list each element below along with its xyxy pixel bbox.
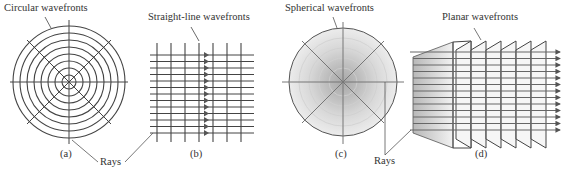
label-straight-line-wavefronts: Straight-line wavefronts [148,11,250,22]
wavefronts-b [157,43,241,142]
caption-d: (d) [475,148,487,159]
rays-b [150,55,254,133]
leader-a [45,17,51,28]
leader-c [333,17,337,28]
caption-a: (a) [60,148,72,159]
rays-a [10,20,128,144]
label-rays-left: Rays [100,156,121,167]
panel-d-planar-wavefronts [410,28,560,148]
arrowheads-b [204,52,209,136]
wavefronts-diagram [0,0,566,169]
caption-b: (b) [190,148,202,159]
label-spherical-wavefronts: Spherical wavefronts [285,2,374,13]
label-planar-wavefronts: Planar wavefronts [442,11,518,22]
leader-b [191,27,199,41]
panel-a-circular-wavefronts [10,17,128,144]
leader-d [474,28,481,40]
label-rays-right: Rays [374,155,395,166]
label-circular-wavefronts: Circular wavefronts [4,2,88,13]
caption-c: (c) [335,148,347,159]
panel-c-spherical-wavefronts [282,17,404,144]
panel-b-straight-wavefronts [150,27,254,142]
